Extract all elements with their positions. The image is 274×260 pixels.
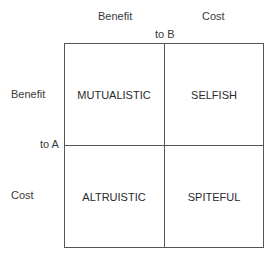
- row-axis-label: to A: [40, 138, 59, 150]
- grid-horizontal-divider: [64, 145, 264, 146]
- column-header-cost: Cost: [202, 10, 225, 22]
- column-header-benefit: Benefit: [98, 10, 132, 22]
- cell-mutualistic: MUTUALISTIC: [77, 89, 150, 101]
- cell-selfish: SELFISH: [191, 89, 237, 101]
- column-axis-label: to B: [155, 28, 175, 40]
- row-header-benefit: Benefit: [11, 88, 45, 100]
- cell-spiteful: SPITEFUL: [188, 191, 241, 203]
- cell-altruistic: ALTRUISTIC: [82, 191, 145, 203]
- row-header-cost: Cost: [11, 189, 34, 201]
